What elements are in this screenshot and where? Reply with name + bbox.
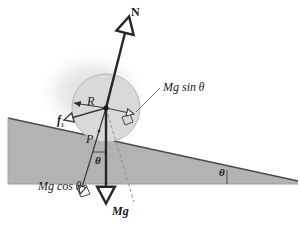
friction-subscript: s [61, 120, 64, 129]
theta-weight-label: θ [95, 155, 101, 166]
contact-point-label: P [86, 133, 93, 145]
theta-incline-label: θ [219, 167, 225, 178]
mg-sin-theta-label: Mg sin θ [163, 81, 204, 93]
physics-diagram-figure: N R Mg sin θ fs P θ θ Mg cos θ Mg [0, 0, 300, 227]
disk-center-point [103, 105, 108, 110]
weight-label: Mg [112, 205, 129, 217]
normal-force-label: N [131, 6, 140, 18]
radius-label: R [87, 95, 94, 107]
contact-point-marker [98, 130, 101, 133]
friction-label: fs [57, 114, 64, 129]
mg-cos-theta-label: Mg cos θ [38, 180, 81, 192]
